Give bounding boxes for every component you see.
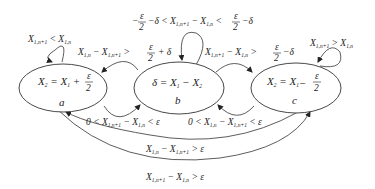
svg-text:X2 = X1−: X2 = X1− bbox=[266, 75, 306, 89]
svg-text:ε: ε bbox=[140, 11, 144, 21]
self-loop-a bbox=[48, 46, 64, 62]
svg-text:2: 2 bbox=[233, 22, 238, 32]
svg-text:2: 2 bbox=[86, 83, 91, 93]
state-c-name: c bbox=[292, 94, 297, 106]
svg-text:ε: ε bbox=[234, 11, 238, 21]
edge-a-to-b bbox=[104, 105, 140, 117]
self-loop-c bbox=[318, 48, 341, 67]
state-a-name: a bbox=[59, 96, 65, 108]
svg-text:ε: ε bbox=[275, 42, 279, 52]
label-b-to-c: X1,n+1 − X1,n > bbox=[204, 47, 257, 58]
svg-text:−δ < X1,n+1 − X1,n <: −δ < X1,n+1 − X1,n < bbox=[148, 16, 222, 27]
label-self-b: − bbox=[132, 16, 138, 26]
label-b-to-a: X1,n − X1,n+1 > bbox=[77, 47, 130, 58]
svg-text:ε: ε bbox=[87, 71, 91, 81]
self-loop-b bbox=[181, 32, 203, 65]
svg-text:2: 2 bbox=[314, 83, 319, 93]
state-a[interactable]: X2 = X1 + ε 2 a bbox=[19, 64, 107, 112]
state-c[interactable]: X2 = X1− ε 2 c bbox=[251, 63, 341, 113]
label-c-to-a: X1,n − X1,n+1 > ε bbox=[145, 144, 204, 155]
svg-text:2: 2 bbox=[148, 53, 153, 63]
edge-b-to-a bbox=[102, 61, 138, 72]
svg-text:2: 2 bbox=[139, 22, 144, 32]
state-b-name: b bbox=[175, 94, 181, 106]
svg-text:X2 = X1 +: X2 = X1 + bbox=[37, 75, 80, 88]
svg-text:−δ: −δ bbox=[242, 16, 253, 26]
svg-text:+ δ: + δ bbox=[158, 47, 172, 57]
state-b[interactable]: δ = X1 − X2 b bbox=[134, 62, 224, 114]
label-self-a: X1,n+1 < X1,n bbox=[27, 34, 71, 45]
edge-c-to-b bbox=[218, 105, 254, 115]
label-self-c: X1,n+1 > X1,n bbox=[309, 38, 353, 49]
state-diagram: X2 = X1 + ε 2 a δ = X1 − X2 b X2 = X1− ε… bbox=[0, 0, 375, 189]
svg-text:ε: ε bbox=[315, 71, 319, 81]
label-c-to-b: 0 < X1,n − X1,n+1 < ε bbox=[188, 117, 262, 128]
label-a-to-c: X1,n+1 − X1,n > ε bbox=[145, 172, 204, 183]
label-a-to-b: 0 < X1,n+1 − X1,n < ε bbox=[86, 117, 160, 128]
svg-text:2: 2 bbox=[274, 53, 279, 63]
edge-b-to-c bbox=[216, 64, 252, 73]
svg-text:−δ: −δ bbox=[283, 47, 294, 57]
svg-text:ε: ε bbox=[149, 42, 153, 52]
